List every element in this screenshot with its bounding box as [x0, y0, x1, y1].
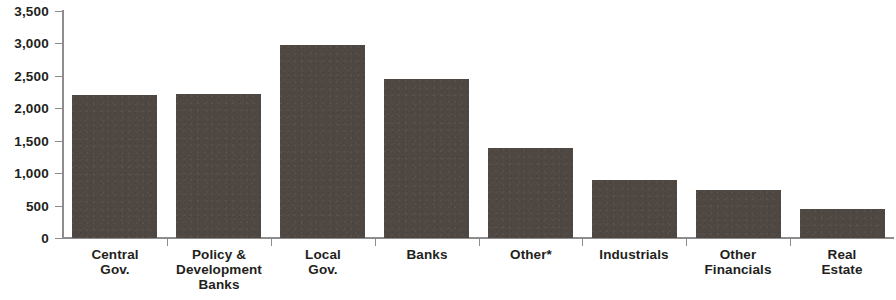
- x-axis-category-label-line: Local: [271, 247, 375, 262]
- x-axis-category-label-line: Other*: [479, 247, 583, 262]
- x-axis-category-label-line: Estate: [790, 262, 894, 277]
- x-axis-category-label: Policy &DevelopmentBanks: [167, 247, 271, 292]
- x-axis-tick: [582, 239, 583, 246]
- bar: [592, 180, 677, 238]
- x-axis-tick: [790, 239, 791, 246]
- bar: [176, 94, 261, 238]
- x-axis-category-label: Other*: [479, 247, 583, 262]
- x-axis-category-label-line: Financials: [686, 262, 790, 277]
- x-axis-category-label-line: Central: [63, 247, 167, 262]
- bar: [72, 95, 157, 238]
- y-axis-tick: [55, 108, 62, 109]
- x-axis-category-label-line: Development: [167, 262, 271, 277]
- y-axis-tick-label: 1,000: [0, 166, 49, 181]
- y-axis-tick-label: 3,500: [0, 4, 49, 19]
- x-axis-tick: [375, 239, 376, 246]
- bar: [696, 190, 781, 238]
- y-axis-tick: [55, 11, 62, 12]
- bar-chart: 05001,0001,5002,0002,5003,0003,500 Centr…: [0, 0, 896, 300]
- x-axis-category-label-line: Policy &: [167, 247, 271, 262]
- x-axis-category-label: Banks: [375, 247, 479, 262]
- x-axis-tick: [271, 239, 272, 246]
- y-axis-tick-label: 500: [0, 198, 49, 213]
- x-axis-category-label-line: Industrials: [582, 247, 686, 262]
- y-axis-line: [62, 10, 64, 239]
- x-axis-category-label: RealEstate: [790, 247, 894, 277]
- y-axis-tick: [55, 206, 62, 207]
- bar: [800, 209, 885, 238]
- y-axis-tick: [55, 238, 62, 239]
- x-axis-category-label-line: Gov.: [63, 262, 167, 277]
- y-axis-tick: [55, 43, 62, 44]
- y-axis-tick: [55, 141, 62, 142]
- x-axis-tick: [479, 239, 480, 246]
- x-axis-tick: [686, 239, 687, 246]
- bar: [488, 148, 573, 238]
- x-axis-category-label: Industrials: [582, 247, 686, 262]
- y-axis-tick-label: 1,500: [0, 133, 49, 148]
- x-axis-category-label: LocalGov.: [271, 247, 375, 277]
- x-axis-category-label-line: Real: [790, 247, 894, 262]
- y-axis-tick-label: 2,000: [0, 101, 49, 116]
- y-axis-tick-label: 0: [0, 231, 49, 246]
- y-axis-tick: [55, 173, 62, 174]
- bar: [384, 79, 469, 238]
- x-axis-category-label: OtherFinancials: [686, 247, 790, 277]
- x-axis-category-label-line: Banks: [375, 247, 479, 262]
- x-axis-category-label-line: Gov.: [271, 262, 375, 277]
- x-axis-category-label-line: Other: [686, 247, 790, 262]
- x-axis-category-label-line: Banks: [167, 277, 271, 292]
- y-axis-tick: [55, 76, 62, 77]
- bar: [280, 45, 365, 238]
- y-axis-tick-label: 3,000: [0, 36, 49, 51]
- x-axis-category-label: CentralGov.: [63, 247, 167, 277]
- x-axis-tick: [167, 239, 168, 246]
- y-axis-tick-label: 2,500: [0, 68, 49, 83]
